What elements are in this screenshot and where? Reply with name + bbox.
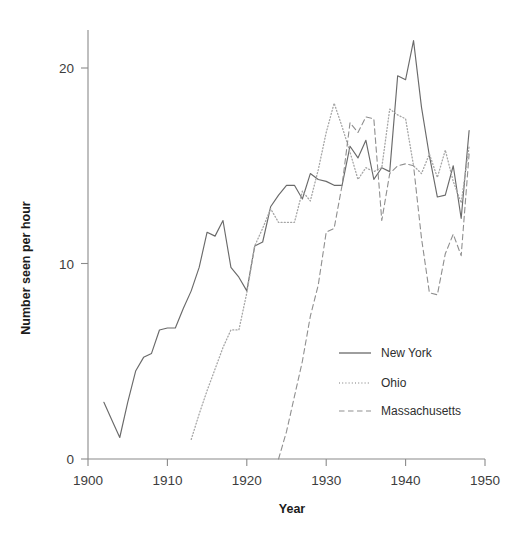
x-tick-label-1920: 1920 <box>232 473 262 488</box>
series-line-ohio <box>191 103 469 439</box>
x-axis-ticks <box>88 459 485 466</box>
y-axis-ticks <box>81 68 88 459</box>
x-tick-label-1950: 1950 <box>470 473 500 488</box>
series-line-new-york <box>104 41 469 438</box>
y-axis-title: Number seen per hour <box>19 201 33 334</box>
x-tick-label-1940: 1940 <box>391 473 421 488</box>
line-chart-figure: 0 10 20 1900 1910 1920 1930 1940 1950 Ye… <box>0 0 524 541</box>
legend-label-new-york: New York <box>381 346 433 360</box>
y-tick-label-0: 0 <box>66 452 74 467</box>
chart-canvas: 0 10 20 1900 1910 1920 1930 1940 1950 Ye… <box>0 0 524 541</box>
x-axis-title: Year <box>279 502 306 516</box>
y-tick-label-10: 10 <box>59 257 74 272</box>
chart-legend: New York Ohio Massachusetts <box>339 346 461 418</box>
x-tick-label-1900: 1900 <box>73 473 103 488</box>
x-tick-label-1910: 1910 <box>152 473 182 488</box>
y-tick-label-20: 20 <box>59 61 74 76</box>
x-tick-label-1930: 1930 <box>311 473 341 488</box>
legend-label-ohio: Ohio <box>381 376 407 390</box>
legend-label-massachusetts: Massachusetts <box>381 404 461 418</box>
